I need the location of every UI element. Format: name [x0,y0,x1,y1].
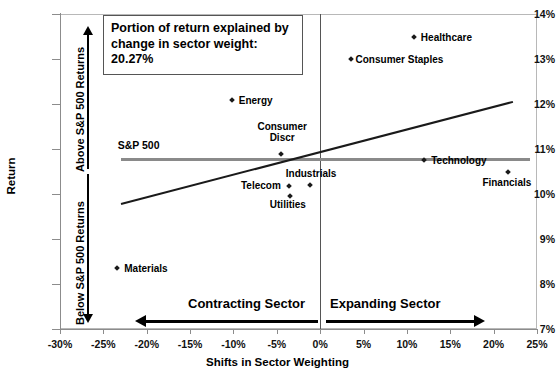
x-tick-mark [450,329,451,334]
x-tick-mark [320,329,321,334]
x-tick-mark [277,329,278,334]
data-point-label: ConsumerDiscr [249,121,315,143]
x-tick-mark [103,329,104,334]
y-tick-label: 7% [499,324,555,334]
y-tick-label: 10% [499,189,555,199]
x-tick-mark [364,329,365,334]
above-region-label: Above S&P 500 Returns [74,47,86,172]
x-tick-mark [537,329,538,334]
contracting-arrow-head [135,315,146,327]
below-region-label: Below S&P 500 Returns [74,201,86,325]
data-point-label: Financials [482,177,531,188]
above-arrow-shaft [87,35,89,169]
x-tick-mark [407,329,408,334]
data-point-label: Consumer Staples [356,54,444,65]
data-point-label: Healthcare [421,32,472,43]
data-point-label: Technology [431,155,486,166]
y-tick-label: 14% [499,9,555,19]
y-tick-label: 9% [499,234,555,244]
x-tick-mark [147,329,148,334]
annotation-line-1: Portion of return explained by [111,21,296,37]
y-axis-title: Return [5,141,17,211]
x-tick-label: 25% [507,338,560,350]
return-region-brackets: Above S&P 500 Returns Below S&P 500 Retu… [60,14,98,329]
data-point-label: Telecom [241,180,281,191]
x-tick-mark [233,329,234,334]
expanding-sector-label: Expanding Sector [330,296,441,311]
data-point-label: Materials [124,263,167,274]
below-arrow-shaft [87,174,89,314]
data-point-label: Energy [239,95,273,106]
expanding-arrow-head [474,315,485,327]
contracting-arrow-shaft [146,320,318,323]
y-tick-label: 11% [499,144,555,154]
x-axis-title: Shifts in Sector Weighting [0,356,555,368]
data-point-label: Utilities [270,199,306,210]
contracting-sector-label: Contracting Sector [188,296,305,311]
expanding-arrow-shaft [326,320,474,323]
annotation-line-2: change in sector weight: [111,37,296,53]
above-arrow-head [83,26,93,35]
y-tick-label: 13% [499,54,555,64]
y-tick-label: 8% [499,279,555,289]
x-tick-mark [190,329,191,334]
x-tick-mark [494,329,495,334]
annotation-textbox: Portion of return explained by change in… [103,15,303,75]
x-axis-line [60,329,538,330]
sp500-line-label: S&P 500 [118,139,160,151]
data-point-label: Industrials [286,168,337,179]
x-tick-mark [60,329,61,334]
annotation-line-3: 20.27% [111,52,296,68]
